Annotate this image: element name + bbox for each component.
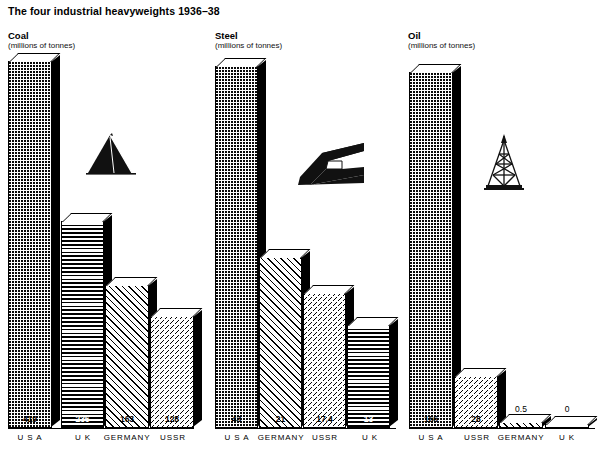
bar-value-oil-ussr: 28 [455, 414, 497, 424]
baseline-oil [409, 428, 595, 429]
bar-side-face [51, 55, 60, 427]
panel-heading-coal: Coal (millions of tonnes) [8, 30, 75, 51]
panel-heading-steel: Steel (millions of tonnes) [215, 30, 282, 51]
panel-unit-coal: (millions of tonnes) [8, 41, 75, 51]
bar-value-steel-ussr: 17.4 [304, 414, 345, 424]
bar-coal-usa[interactable]: 419 [8, 61, 52, 428]
oil-derrick-icon [480, 134, 528, 198]
bar-oil-germany[interactable] [499, 422, 543, 428]
panel-title-coal: Coal [8, 30, 75, 41]
page-title: The four industrial heavyweights 1936–38 [8, 5, 220, 17]
coal-heap-icon [84, 133, 140, 183]
bar-value-oil-germany: 0.5 [495, 404, 547, 414]
chart-page: The four industrial heavyweights 1936–38… [0, 0, 603, 456]
bar-value-steel-uk: 13 [348, 414, 389, 424]
bar-value-coal-usa: 419 [9, 414, 51, 424]
bar-value-coal-germany: 163 [106, 414, 148, 424]
bar-value-coal-uk: 236 [62, 414, 103, 424]
cat-label-coal-ussr: USSR [146, 433, 200, 442]
bar-side-face [193, 310, 202, 427]
cat-label-coal-usa: U S A [2, 433, 58, 442]
bar-coal-uk[interactable]: 236 [61, 221, 104, 428]
baseline-coal [8, 428, 194, 429]
bar-value-steel-usa: 43 [216, 414, 257, 424]
panel-unit-steel: (millions of tonnes) [215, 41, 282, 51]
panel-heading-oil: Oil (millions of tonnes) [408, 30, 475, 51]
bar-steel-germany[interactable]: 21 [259, 257, 302, 428]
bar-coal-germany[interactable]: 163 [105, 285, 149, 428]
bar-oil-usa[interactable]: 166 [409, 72, 453, 428]
bar-oil-uk[interactable] [545, 424, 589, 428]
cat-label-oil-uk: U K [540, 433, 594, 442]
baseline-steel [215, 428, 396, 429]
bar-steel-ussr[interactable]: 17.4 [303, 293, 346, 428]
panel-title-oil: Oil [408, 30, 475, 41]
bar-side-face [389, 319, 398, 427]
bar-value-coal-ussr: 128 [151, 414, 193, 424]
bar-oil-ussr[interactable]: 28 [454, 376, 498, 428]
panel-unit-oil: (millions of tonnes) [408, 41, 475, 51]
bar-coal-ussr[interactable]: 128 [150, 316, 194, 428]
steel-girder-icon [292, 135, 372, 195]
panel-title-steel: Steel [215, 30, 282, 41]
cat-label-steel-uk: U K [343, 433, 397, 442]
bar-value-steel-germany: 21 [260, 414, 301, 424]
bar-value-oil-uk: 0 [541, 404, 593, 414]
bar-steel-uk[interactable]: 13 [347, 325, 390, 428]
bar-steel-usa[interactable]: 43 [215, 66, 258, 428]
bar-value-oil-usa: 166 [410, 414, 452, 424]
